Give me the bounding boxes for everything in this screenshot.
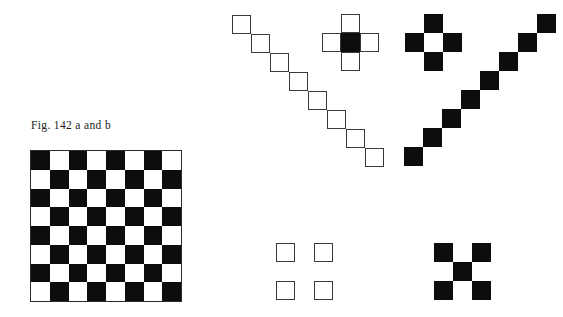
white-cross-black-center-module	[322, 33, 341, 52]
checkerboard-cell	[162, 207, 181, 226]
white-cross-black-center-module	[341, 33, 360, 52]
black-diagonal-staircase-module	[480, 71, 499, 90]
black-diagonal-staircase-module	[442, 109, 461, 128]
white-diagonal-staircase-module	[289, 72, 308, 91]
checkerboard-cell	[162, 189, 181, 208]
black-saltire-filled-center-module	[472, 243, 491, 262]
checkerboard-cell	[106, 264, 125, 283]
checkerboard-cell	[144, 207, 163, 226]
checkerboard-cell	[31, 245, 50, 264]
checkerboard-cell	[50, 189, 69, 208]
checkerboard-cell	[31, 151, 50, 170]
checkerboard-cell	[31, 282, 50, 301]
checkerboard-cell	[162, 226, 181, 245]
figure-plate: Fig. 142 a and b	[0, 0, 563, 317]
checkerboard-cell	[144, 264, 163, 283]
checkerboard-cell	[87, 264, 106, 283]
checkerboard-cell	[31, 189, 50, 208]
black-saltire-filled-center-module	[434, 281, 453, 300]
white-cross-black-center-module	[341, 52, 360, 71]
white-saltire-open-center-module	[314, 243, 333, 262]
checkerboard-cell	[125, 226, 144, 245]
checkerboard-cell	[50, 226, 69, 245]
checkerboard-cell	[69, 207, 88, 226]
white-saltire-open-center-module	[314, 281, 333, 300]
checkerboard-cell	[87, 207, 106, 226]
white-diagonal-staircase-module	[346, 129, 365, 148]
white-diagonal-staircase-module	[232, 15, 251, 34]
black-diagonal-staircase-module	[499, 52, 518, 71]
checkerboard-cell	[162, 170, 181, 189]
white-cross-black-center-module	[341, 14, 360, 33]
checkerboard-cell	[162, 282, 181, 301]
checkerboard-cell	[69, 282, 88, 301]
checkerboard-cell	[69, 170, 88, 189]
black-diagonal-staircase-module	[423, 128, 442, 147]
checkerboard-cell	[162, 264, 181, 283]
black-diagonal-staircase-module	[404, 147, 423, 166]
checkerboard-cell	[87, 170, 106, 189]
checkerboard-cell	[87, 151, 106, 170]
black-cross-white-center-module	[443, 33, 462, 52]
figure-caption: Fig. 142 a and b	[31, 118, 111, 132]
checkerboard-cell	[50, 245, 69, 264]
checkerboard-cell	[106, 189, 125, 208]
checkerboard-cell	[31, 264, 50, 283]
checkerboard-cell	[69, 264, 88, 283]
checkerboard-cell	[69, 245, 88, 264]
checkerboard-cell	[50, 264, 69, 283]
checkerboard-cell	[125, 282, 144, 301]
white-diagonal-staircase-module	[327, 110, 346, 129]
checkerboard-cell	[125, 189, 144, 208]
checkerboard-cell	[50, 207, 69, 226]
white-saltire-open-center-module	[276, 243, 295, 262]
checkerboard-cell	[106, 282, 125, 301]
checkerboard-cell	[31, 170, 50, 189]
checkerboard-cell	[144, 151, 163, 170]
black-cross-white-center-module	[424, 52, 443, 71]
white-diagonal-staircase-module	[365, 148, 384, 167]
checkerboard-cell	[31, 207, 50, 226]
checkerboard-cell	[144, 245, 163, 264]
checkerboard-cell	[144, 282, 163, 301]
checkerboard-cell	[106, 226, 125, 245]
black-cross-white-center-module	[424, 14, 443, 33]
black-saltire-filled-center-module	[453, 262, 472, 281]
checkerboard-cell	[125, 245, 144, 264]
black-saltire-filled-center-module	[434, 243, 453, 262]
checkerboard-cell	[144, 170, 163, 189]
checkerboard-cell	[69, 189, 88, 208]
black-diagonal-staircase-module	[518, 33, 537, 52]
checkerboard-cell	[125, 151, 144, 170]
checkerboard-cell	[144, 226, 163, 245]
checkerboard-cell	[106, 170, 125, 189]
checkerboard-cell	[106, 151, 125, 170]
checkerboard-cell	[144, 189, 163, 208]
checkerboard-cell	[87, 282, 106, 301]
checkerboard-cell	[50, 282, 69, 301]
black-cross-white-center-module	[424, 33, 443, 52]
checkerboard-cell	[69, 226, 88, 245]
white-diagonal-staircase-module	[251, 34, 270, 53]
checkerboard-cell	[106, 207, 125, 226]
checkerboard-cell	[125, 207, 144, 226]
checkerboard-cell	[162, 151, 181, 170]
white-diagonal-staircase-module	[270, 53, 289, 72]
checkerboard-cell	[106, 245, 125, 264]
checkerboard-cell	[125, 170, 144, 189]
checkerboard-cell	[87, 226, 106, 245]
checkerboard-cell	[162, 245, 181, 264]
black-diagonal-staircase-module	[537, 14, 556, 33]
checkerboard-figure	[30, 150, 182, 302]
checkerboard-cell	[69, 151, 88, 170]
checkerboard-cell	[87, 245, 106, 264]
checkerboard-cell	[87, 189, 106, 208]
checkerboard-cell	[50, 151, 69, 170]
black-diagonal-staircase-module	[461, 90, 480, 109]
white-diagonal-staircase-module	[308, 91, 327, 110]
white-saltire-open-center-module	[276, 281, 295, 300]
checkerboard-cell	[31, 226, 50, 245]
black-saltire-filled-center-module	[472, 281, 491, 300]
black-cross-white-center-module	[405, 33, 424, 52]
checkerboard-cell	[125, 264, 144, 283]
